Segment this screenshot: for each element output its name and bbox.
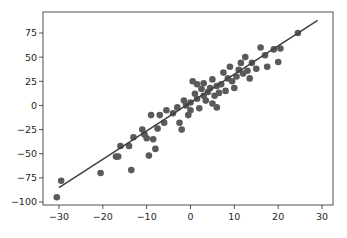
x-tick-label: −10 — [137, 211, 157, 222]
data-point — [187, 107, 194, 114]
data-point — [115, 153, 122, 160]
y-axis-ticks: −100−75−50−250255075 — [11, 27, 43, 207]
data-point — [196, 105, 203, 112]
x-tick-label: −20 — [93, 211, 113, 222]
data-point — [216, 90, 223, 97]
y-tick-label: 25 — [25, 76, 37, 87]
data-point — [150, 136, 157, 143]
data-point — [200, 80, 207, 87]
data-point — [157, 112, 164, 119]
x-tick-label: 0 — [187, 211, 193, 222]
data-point — [178, 126, 185, 133]
data-point — [253, 65, 260, 72]
x-tick-label: −30 — [49, 211, 69, 222]
x-axis-ticks: −30−20−100102030 — [49, 205, 328, 222]
data-point — [214, 104, 221, 111]
data-point — [209, 76, 216, 83]
x-tick-label: 20 — [272, 211, 284, 222]
data-point — [58, 178, 65, 185]
data-point — [203, 97, 210, 104]
data-point — [264, 64, 271, 71]
x-tick-label: 10 — [228, 211, 240, 222]
data-point — [148, 112, 155, 119]
y-tick-label: 75 — [25, 27, 37, 38]
data-point — [128, 167, 135, 174]
data-point — [163, 107, 170, 114]
data-point — [244, 67, 251, 74]
data-point — [238, 60, 245, 67]
data-point — [246, 75, 253, 82]
data-point — [231, 85, 238, 92]
data-point — [154, 125, 161, 132]
data-point — [222, 88, 229, 95]
data-point — [54, 194, 61, 201]
data-point — [220, 69, 227, 76]
scatter-chart: −30−20−100102030 −100−75−50−250255075 — [0, 0, 347, 238]
y-tick-label: −100 — [11, 196, 37, 207]
data-point — [257, 44, 264, 51]
data-point — [97, 170, 104, 177]
y-tick-label: −75 — [17, 172, 37, 183]
x-tick-label: 30 — [316, 211, 328, 222]
data-point — [275, 59, 282, 66]
data-point — [146, 152, 153, 159]
data-point — [143, 135, 150, 142]
y-tick-label: 0 — [31, 100, 37, 111]
data-point — [152, 146, 159, 153]
data-point — [198, 86, 205, 93]
data-point — [227, 64, 234, 71]
y-tick-label: −25 — [17, 124, 37, 135]
y-tick-label: −50 — [17, 148, 37, 159]
data-point — [176, 120, 183, 127]
y-tick-label: 50 — [25, 52, 37, 63]
data-point — [242, 54, 249, 61]
